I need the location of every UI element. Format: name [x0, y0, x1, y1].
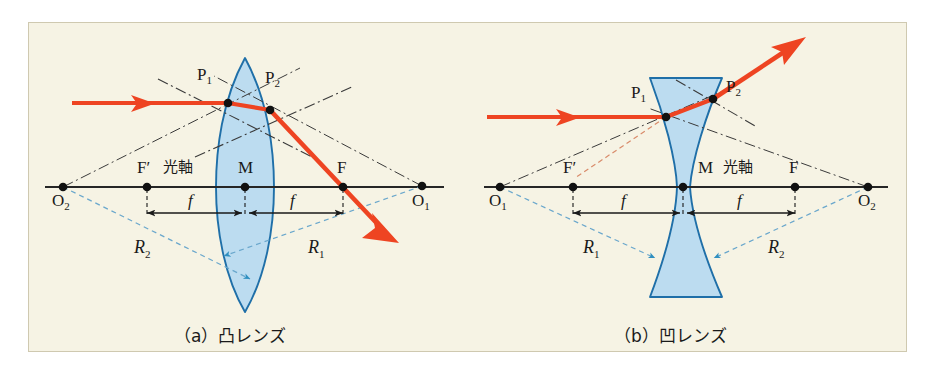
concave-radius-r1-line: [500, 187, 655, 258]
convex-label-o2: O2: [52, 192, 70, 212]
convex-label-focal-point-right: F: [337, 159, 346, 176]
convex-emergent-ray: [270, 110, 385, 232]
convex-point-m: [241, 183, 250, 192]
convex-label-center: M: [238, 159, 253, 176]
convex-point-f-left: [143, 183, 152, 192]
concave-label-center: M: [698, 159, 713, 176]
convex-label-focal-length-right: f: [290, 192, 295, 209]
concave-label-p1: P1: [631, 84, 646, 104]
convex-label-p2: P2: [265, 69, 280, 89]
concave-label-p2: P2: [726, 78, 741, 98]
convex-point-p2: [266, 106, 275, 115]
concave-emergent-ray-arrowhead: [771, 37, 806, 65]
convex-label-o1: O1: [412, 192, 430, 212]
concave-virtual-ray: [575, 117, 666, 178]
concave-point-o1: [496, 183, 505, 192]
convex-label-focal-length-left: f: [188, 192, 193, 209]
concave-point-p1: [662, 113, 671, 122]
concave-label-focal-length-left: f: [621, 192, 626, 209]
concave-label-optical-axis: 光軸: [723, 160, 753, 175]
convex-label-focal-point-left: F′: [137, 159, 150, 176]
convex-point-o2: [59, 183, 68, 192]
panel-convex: [45, 58, 444, 312]
convex-label-radius-r1: R1: [308, 238, 325, 260]
concave-label-focal-point-left: F′: [563, 159, 576, 176]
convex-label-p1: P1: [197, 66, 212, 86]
lens-diagram-canvas: [0, 0, 935, 375]
lens-refraction-figure: P1 P2 F′ 光軸 M F O2 O1 f f R2 R1 （a）凸レンズ …: [0, 0, 935, 375]
convex-emergent-ray-arrowhead: [362, 213, 399, 243]
convex-point-p1: [224, 99, 233, 108]
concave-point-m: [679, 183, 688, 192]
concave-point-f-left: [569, 183, 578, 192]
concave-label-focal-length-right: f: [737, 192, 742, 209]
convex-normal-line-p2: [195, 87, 352, 157]
convex-label-optical-axis: 光軸: [163, 160, 193, 175]
convex-point-f-right: [339, 183, 348, 192]
concave-point-o2: [864, 183, 873, 192]
panel-concave: [484, 37, 888, 297]
concave-label-radius-r2: R2: [768, 238, 785, 260]
concave-label-o2: O2: [858, 192, 876, 212]
concave-caption: （b）凹レンズ: [614, 322, 727, 347]
concave-label-focal-point-right: F: [789, 159, 798, 176]
concave-point-p2: [709, 95, 718, 104]
convex-point-o1: [418, 182, 427, 191]
concave-label-o1: O1: [489, 192, 507, 212]
concave-emergent-ray: [713, 48, 790, 99]
convex-caption: （a）凸レンズ: [174, 322, 286, 347]
convex-label-radius-r2: R2: [134, 238, 151, 260]
concave-point-f-right: [791, 183, 800, 192]
concave-label-radius-r1: R1: [583, 238, 600, 260]
